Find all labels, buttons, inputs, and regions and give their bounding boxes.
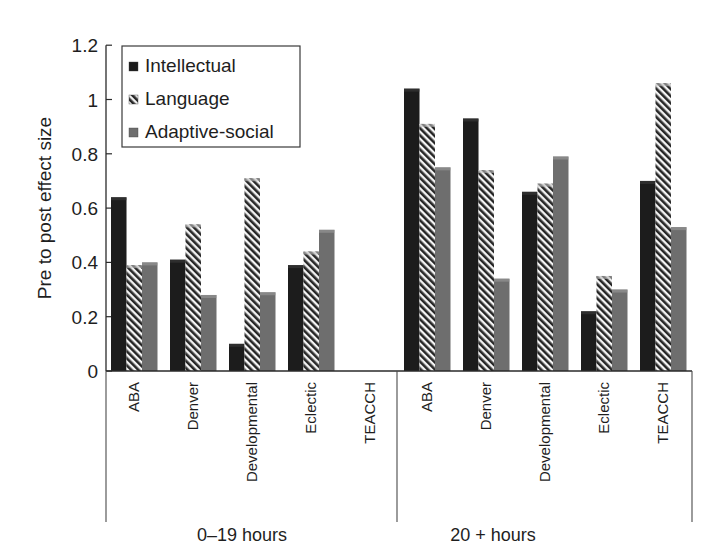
bar-language-eclectic (597, 276, 613, 371)
bar-intellectual-developmental (522, 192, 538, 371)
legend-label: Intellectual (145, 55, 236, 76)
effect-size-bar-chart: 00.20.40.60.811.2 ABADenverDevelopmental… (0, 0, 722, 559)
bar-language-denver (479, 170, 495, 371)
y-tick-label: 0.6 (72, 198, 98, 219)
y-axis: 00.20.40.60.811.2 (72, 35, 112, 382)
bar-intellectual-teacch (640, 181, 656, 371)
group-label: 0–19 hours (197, 525, 287, 545)
x-category-label: Developmental (243, 382, 260, 482)
bar-adaptive-social-aba (142, 262, 158, 371)
bar-intellectual-denver (170, 260, 186, 371)
x-category-label: Denver (477, 382, 494, 430)
x-category-label: Developmental (536, 382, 553, 482)
group-label: 20 + hours (450, 525, 536, 545)
bar-adaptive-social-denver (494, 279, 510, 371)
x-category-label: Eclectic (595, 382, 612, 434)
bar-adaptive-social-developmental (553, 157, 569, 371)
x-axis: ABADenverDevelopmentalEclecticTEACCH0–19… (106, 371, 692, 545)
bar-intellectual-aba (404, 89, 420, 371)
legend-label: Language (145, 88, 230, 109)
bar-language-aba (420, 124, 436, 371)
y-axis-label: Pre to post effect size (34, 117, 55, 299)
x-category-label: ABA (125, 382, 142, 412)
bar-language-eclectic (304, 252, 320, 371)
x-category-label: ABA (418, 382, 435, 412)
y-tick-label: 1 (87, 90, 98, 111)
x-category-label: TEACCH (361, 382, 378, 444)
bar-adaptive-social-aba (435, 167, 451, 371)
legend-swatch-adaptive-social (129, 128, 138, 137)
bar-language-teacch (656, 83, 672, 371)
legend: IntellectualLanguageAdaptive-social (122, 46, 300, 147)
bar-intellectual-aba (111, 197, 127, 371)
y-tick-label: 0.4 (72, 252, 99, 273)
y-tick-label: 0.2 (72, 307, 98, 328)
x-category-label: TEACCH (654, 382, 671, 444)
x-category-label: Denver (184, 382, 201, 430)
bar-adaptive-social-developmental (260, 292, 276, 371)
bar-intellectual-denver (463, 119, 479, 371)
y-tick-label: 0 (87, 361, 98, 382)
legend-label: Adaptive-social (145, 121, 274, 142)
bar-language-developmental (245, 178, 261, 371)
bar-adaptive-social-eclectic (319, 230, 335, 371)
bar-adaptive-social-eclectic (612, 290, 628, 371)
bar-language-developmental (538, 184, 554, 371)
bar-intellectual-eclectic (581, 311, 597, 371)
bar-intellectual-developmental (229, 344, 245, 371)
bar-adaptive-social-denver (201, 295, 217, 371)
bar-language-aba (127, 265, 143, 371)
y-tick-label: 1.2 (72, 35, 98, 56)
bar-language-denver (186, 224, 202, 371)
x-category-label: Eclectic (302, 382, 319, 434)
bar-intellectual-eclectic (288, 265, 304, 371)
legend-swatch-intellectual (129, 62, 138, 71)
legend-swatch-language (129, 95, 138, 104)
y-tick-label: 0.8 (72, 144, 98, 165)
bar-adaptive-social-teacch (671, 227, 687, 371)
